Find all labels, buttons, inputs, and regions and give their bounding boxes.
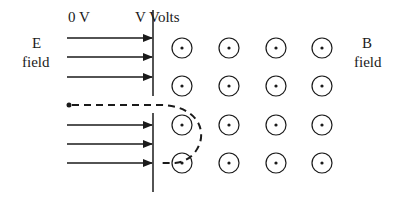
- b-field-symbols: [172, 38, 332, 173]
- b-field-out-of-page-icon: [312, 153, 332, 173]
- b-field-out-of-page-icon: [219, 153, 239, 173]
- b-field-out-of-page-icon: [172, 38, 192, 58]
- b-field-label-line2: field: [354, 54, 382, 70]
- b-field-out-of-page-icon: [219, 38, 239, 58]
- b-field-out-of-page-icon: [219, 115, 239, 135]
- b-field-out-of-page-icon: [266, 38, 286, 58]
- b-field-out-of-page-icon: [266, 76, 286, 96]
- b-field-out-of-page-icon: [266, 115, 286, 135]
- e-field-label-line1: E: [32, 35, 41, 51]
- v-volts-label: V Volts: [135, 9, 180, 25]
- b-field-out-of-page-icon: [312, 76, 332, 96]
- e-field-label-line2: field: [22, 54, 50, 70]
- b-field-out-of-page-icon: [172, 76, 192, 96]
- particle-trajectory: [67, 103, 202, 164]
- b-field-out-of-page-icon: [312, 38, 332, 58]
- zero-volts-label: 0 V: [68, 9, 90, 25]
- b-field-out-of-page-icon: [219, 76, 239, 96]
- b-field-label-line1: B: [362, 35, 372, 51]
- b-field-out-of-page-icon: [266, 153, 286, 173]
- b-field-out-of-page-icon: [312, 115, 332, 135]
- particle-start-dot: [67, 103, 72, 108]
- e-field-arrows: [67, 38, 152, 163]
- diagram-canvas: [0, 0, 411, 206]
- b-field-out-of-page-icon: [172, 115, 192, 135]
